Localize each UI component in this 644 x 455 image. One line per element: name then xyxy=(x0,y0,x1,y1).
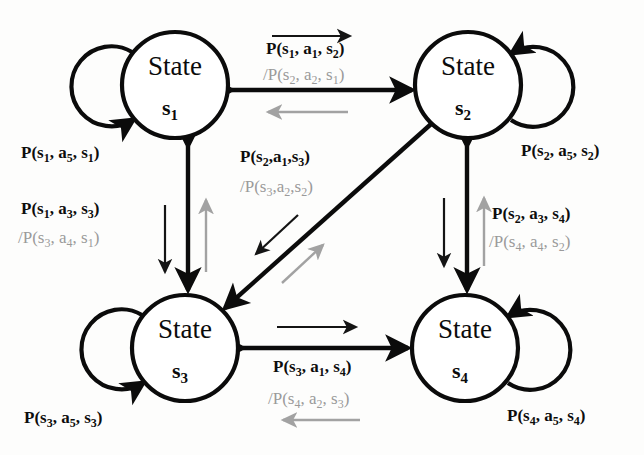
edge-s2-s4-forward-label: P(s2, a3, s4) xyxy=(492,204,570,226)
edge-s2-s3-reverse-label: /P(s3,a2,s2) xyxy=(240,177,313,199)
edge-s3-s4-reverse-label: /P(s4, a2, s3) xyxy=(268,389,349,411)
edge-s1-s3 xyxy=(165,146,206,290)
edge-s2-s3-forward-label: P(s2,a1,s3) xyxy=(240,147,310,169)
mdp-diagram-canvas: State s1 State s2 State s3 State s4 P(s1… xyxy=(0,0,644,455)
state-s4-title: State xyxy=(438,314,492,344)
edge-s1-s2-forward-label: P(s1, a1, s2) xyxy=(266,39,344,61)
edge-s3-s4-forward-label: P(s3, a1, s4) xyxy=(273,357,351,379)
state-node-s4[interactable]: State s4 xyxy=(412,295,518,401)
mdp-diagram: State s1 State s2 State s3 State s4 P(s1… xyxy=(0,0,644,455)
self-loop-s2-label: P(s2, a5, s2) xyxy=(521,141,599,163)
edge-s1-s3-forward-label: P(s1, a3, s3) xyxy=(21,199,99,221)
state-s3-title: State xyxy=(158,314,212,344)
edge-s2-s4 xyxy=(444,146,484,290)
state-s1-title: State xyxy=(148,51,202,81)
edge-s1-s3-reverse-label: /P(s3, a4, s1) xyxy=(18,228,99,250)
self-loop-s3-label: P(s3, a5, s3) xyxy=(24,408,102,430)
self-loop-s1-label: P(s1, a5, s1) xyxy=(21,143,99,165)
state-node-s1[interactable]: State s1 xyxy=(122,32,228,138)
state-node-s3[interactable]: State s3 xyxy=(132,295,238,401)
edge-s1-s2-reverse-label: /P(s2, a2, s1) xyxy=(263,65,344,87)
edge-s2-s4-reverse-label: /P(s4, a4, s2) xyxy=(489,232,570,254)
self-loop-s4-label: P(s4, a5, s4) xyxy=(507,406,585,428)
state-node-s2[interactable]: State s2 xyxy=(415,32,521,138)
state-s2-title: State xyxy=(441,51,495,81)
